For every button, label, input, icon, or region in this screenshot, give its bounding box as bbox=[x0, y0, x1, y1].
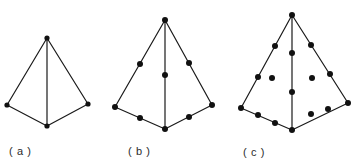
mesh-node bbox=[186, 114, 192, 120]
mesh-node bbox=[112, 104, 118, 110]
tetra-edge bbox=[7, 105, 47, 126]
panels-layer bbox=[4, 12, 351, 133]
tetra-edge bbox=[7, 38, 47, 105]
nodes-group-b bbox=[112, 17, 215, 132]
tetrahedron-panel-b bbox=[112, 17, 215, 132]
mesh-node bbox=[44, 123, 49, 128]
tetrahedron-panel-a bbox=[4, 35, 90, 128]
mesh-node bbox=[85, 101, 90, 106]
tetra-edge bbox=[241, 108, 292, 130]
panel-caption-b: ( b ) bbox=[128, 145, 151, 157]
tetra-edge bbox=[47, 104, 88, 126]
mesh-node bbox=[289, 50, 295, 56]
mesh-node bbox=[137, 115, 143, 121]
mesh-node bbox=[238, 105, 244, 111]
mesh-node bbox=[345, 100, 351, 106]
mesh-node bbox=[289, 12, 295, 18]
mesh-node bbox=[255, 74, 261, 80]
tetrahedral-elements-diagram: ( a )( b )( c ) bbox=[0, 0, 356, 164]
mesh-node bbox=[289, 127, 295, 133]
mesh-node bbox=[162, 72, 168, 78]
panel-caption-a: ( a ) bbox=[9, 145, 32, 157]
mesh-node bbox=[162, 17, 168, 23]
mesh-node bbox=[325, 106, 331, 112]
tetra-edge bbox=[292, 103, 348, 130]
mesh-node bbox=[289, 89, 295, 95]
mesh-node bbox=[162, 126, 168, 132]
mesh-node bbox=[44, 35, 49, 40]
mesh-node bbox=[137, 61, 143, 67]
figure-container: ( a )( b )( c ) bbox=[0, 0, 356, 164]
mesh-node bbox=[186, 60, 192, 66]
mesh-node bbox=[308, 111, 314, 117]
mesh-node bbox=[327, 71, 333, 77]
mesh-node bbox=[255, 112, 261, 118]
mesh-node bbox=[308, 42, 314, 48]
panel-caption-c: ( c ) bbox=[243, 146, 265, 158]
captions-layer: ( a )( b )( c ) bbox=[9, 145, 265, 158]
mesh-node bbox=[269, 75, 275, 81]
nodes-group-c bbox=[238, 12, 351, 133]
mesh-node bbox=[309, 75, 315, 81]
tetra-edge bbox=[47, 38, 88, 104]
tetra-edge bbox=[241, 15, 292, 108]
tetra-edge bbox=[292, 15, 348, 103]
mesh-node bbox=[272, 43, 278, 49]
tetrahedron-panel-c bbox=[238, 12, 351, 133]
mesh-node bbox=[272, 120, 278, 126]
edges-group-a bbox=[7, 38, 88, 126]
mesh-node bbox=[209, 102, 215, 108]
mesh-node bbox=[4, 102, 9, 107]
